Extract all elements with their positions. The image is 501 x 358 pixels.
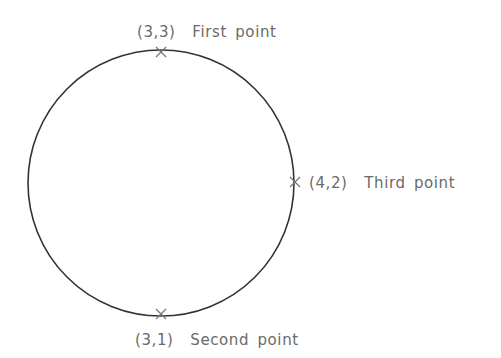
second-point-label: (3,1) Second point [135, 331, 299, 349]
first-point-marker-icon [156, 47, 166, 57]
circle [28, 50, 294, 316]
third-point-label: (4,2) Third point [309, 174, 455, 192]
diagram-canvas: (3,3) First point (4,2) Third point (3,1… [0, 0, 501, 358]
second-point-marker-icon [156, 309, 166, 319]
first-point-label: (3,3) First point [137, 23, 277, 41]
third-point-marker-icon [290, 177, 300, 187]
